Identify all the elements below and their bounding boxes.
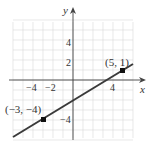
point-marker xyxy=(120,68,125,73)
point-marker xyxy=(41,117,46,122)
y-tick-label: −4 xyxy=(60,114,71,125)
y-axis-label: y xyxy=(62,4,68,16)
x-tick-label: −4 xyxy=(26,82,37,93)
x-tick-label: −2 xyxy=(45,82,56,93)
graph-svg: x y −4 −2 4 4 2 −4 (5, 1) (−3, −4) xyxy=(0,0,154,144)
point-label: (−3, −4) xyxy=(5,103,42,116)
y-tick-label: 2 xyxy=(66,57,71,68)
x-tick-label: 4 xyxy=(110,82,115,93)
coordinate-plane: x y −4 −2 4 4 2 −4 (5, 1) (−3, −4) xyxy=(0,0,154,144)
x-axis-label: x xyxy=(139,83,145,95)
point-label: (5, 1) xyxy=(105,56,129,69)
axes: x y xyxy=(9,4,146,140)
y-tick-label: 4 xyxy=(66,37,71,48)
